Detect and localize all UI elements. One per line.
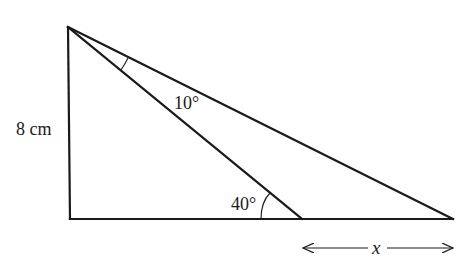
side-height-label: 8 cm [16,119,52,139]
vertical-side [68,27,70,219]
unknown-length-label: x [371,237,381,258]
cevian-line [68,27,302,219]
triangle-diagram: 8 cm 10° 40° x [0,0,471,269]
angle-top-label: 10° [174,93,199,113]
angle-base-label: 40° [231,194,256,214]
angle-arc-10 [121,58,128,70]
angle-arc-40 [261,193,270,219]
hypotenuse [68,27,453,219]
